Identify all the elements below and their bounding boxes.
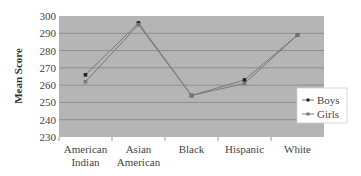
- data-point-girls: [84, 80, 88, 84]
- y-tick-label: 240: [40, 114, 57, 126]
- y-tick-label: 270: [40, 62, 57, 74]
- legend: BoysGirls: [297, 88, 347, 123]
- data-point-girls: [137, 23, 141, 27]
- y-tick-label: 230: [40, 131, 57, 143]
- y-tick-label: 280: [40, 45, 57, 57]
- y-tick-label: 290: [40, 27, 57, 39]
- y-tick-label: 260: [40, 79, 57, 91]
- data-point-girls: [296, 33, 300, 37]
- legend-marker-girls: [307, 113, 310, 116]
- data-point-boys: [243, 78, 247, 82]
- y-tick-label: 250: [40, 96, 57, 108]
- x-category-label: AsianAmerican: [117, 143, 161, 168]
- data-point-girls: [243, 82, 247, 86]
- plot-area: [59, 16, 324, 137]
- x-axis-ticks: AmericanIndianAsianAmericanBlackHispanic…: [59, 137, 311, 168]
- legend-label-girls: Girls: [317, 108, 339, 120]
- data-point-boys: [84, 73, 88, 77]
- legend-marker-boys: [307, 99, 310, 102]
- y-axis-ticks: 230240250260270280290300: [40, 10, 57, 143]
- data-point-girls: [190, 94, 194, 98]
- x-category-label: Black: [179, 143, 205, 155]
- x-category-label: AmericanIndian: [64, 143, 108, 168]
- y-tick-label: 300: [40, 10, 57, 22]
- x-category-label: White: [284, 143, 311, 155]
- line-chart: 230240250260270280290300 AmericanIndianA…: [0, 0, 361, 176]
- y-axis-title: Mean Score: [12, 48, 24, 104]
- legend-label-boys: Boys: [317, 94, 340, 106]
- x-category-label: Hispanic: [225, 143, 264, 155]
